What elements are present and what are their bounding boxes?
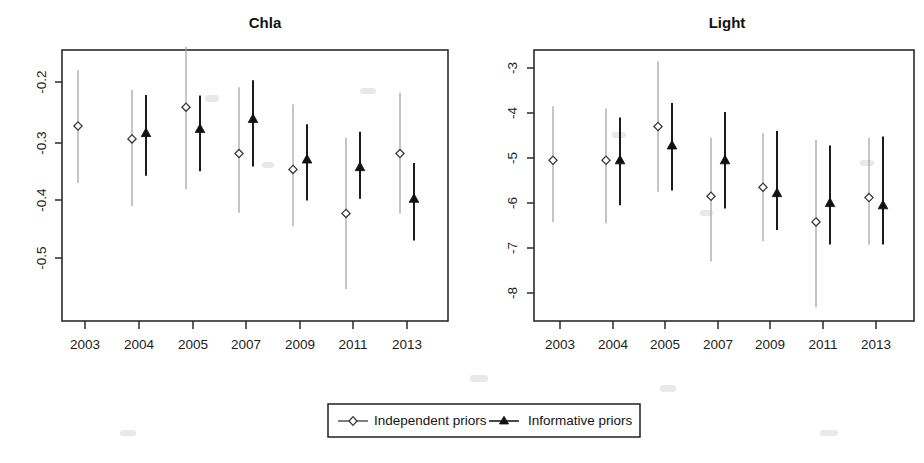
data-point-2013-independent <box>396 93 404 214</box>
ytick-label: -3 <box>505 62 520 74</box>
panel-chla-title: Chla <box>249 14 282 31</box>
data-point-2013-independent <box>865 138 873 245</box>
filled-triangle-icon <box>667 140 677 149</box>
data-point-2011-independent <box>342 138 350 289</box>
open-diamond-icon <box>128 135 136 143</box>
ytick-label: -6 <box>505 197 520 209</box>
data-point-2005-independent <box>182 47 190 190</box>
open-diamond-icon <box>707 192 715 200</box>
filled-triangle-icon <box>615 155 625 164</box>
panel-light: Light -3 -4 -5 -6 -7 -8 2003 <box>505 14 914 352</box>
legend-label-independent: Independent priors <box>374 413 487 428</box>
legend-label-informative: Informative priors <box>528 413 633 428</box>
data-point-2005-independent <box>654 61 662 192</box>
data-point-2013-informative <box>878 136 888 244</box>
ytick-label: -0.2 <box>34 70 49 93</box>
xtick-label: 2003 <box>545 337 575 352</box>
panel-chla-data <box>74 47 419 289</box>
filled-triangle-icon <box>825 198 835 207</box>
data-point-2009-independent <box>289 104 297 226</box>
data-point-2003-independent <box>74 70 82 183</box>
data-point-2005-informative <box>667 103 677 190</box>
filled-triangle-icon <box>195 124 205 133</box>
open-diamond-icon <box>602 156 610 164</box>
data-point-2007-independent <box>235 87 243 213</box>
filled-triangle-icon <box>355 162 365 171</box>
data-point-2009-informative <box>302 124 312 200</box>
scan-artifacts <box>120 88 874 436</box>
ytick-label: -0.4 <box>34 188 49 212</box>
xtick-label: 2005 <box>178 337 208 352</box>
filled-triangle-icon <box>302 154 312 163</box>
data-point-2009-informative <box>772 131 782 230</box>
open-diamond-icon <box>396 149 404 157</box>
data-point-2004-independent <box>602 109 610 224</box>
data-point-2007-independent <box>707 138 715 262</box>
filled-triangle-icon <box>141 128 151 137</box>
panel-chla-x-axis: 2003 2004 2005 2007 2009 2011 2013 <box>70 321 422 352</box>
ytick-label: -0.5 <box>34 246 49 269</box>
panel-chla-y-axis: -0.2 -0.3 -0.4 -0.5 <box>34 70 62 269</box>
data-point-2007-informative <box>720 112 730 208</box>
data-point-2004-informative <box>141 95 151 176</box>
panel-light-title: Light <box>709 14 746 31</box>
data-point-2004-informative <box>615 118 625 206</box>
ytick-label: -7 <box>505 242 520 254</box>
open-diamond-icon <box>235 149 243 157</box>
xtick-label: 2005 <box>650 337 680 352</box>
data-point-2013-informative <box>409 163 419 240</box>
open-diamond-icon <box>289 165 297 173</box>
xtick-label: 2009 <box>755 337 785 352</box>
filled-triangle-icon <box>409 194 419 203</box>
ytick-label: -4 <box>505 107 520 119</box>
xtick-label: 2011 <box>808 337 837 352</box>
open-diamond-icon <box>812 218 820 226</box>
open-diamond-icon <box>342 209 350 217</box>
open-diamond-icon <box>74 122 82 130</box>
xtick-label: 2007 <box>231 337 261 352</box>
xtick-label: 2004 <box>124 337 155 352</box>
data-point-2007-informative <box>248 80 258 166</box>
filled-triangle-icon <box>878 200 888 209</box>
xtick-label: 2004 <box>598 337 629 352</box>
xtick-label: 2013 <box>392 337 422 352</box>
filled-triangle-icon <box>720 155 730 164</box>
open-diamond-icon <box>182 103 190 111</box>
open-diamond-icon <box>654 122 662 130</box>
panel-light-data <box>549 61 888 307</box>
figure-canvas: Chla -0.2 -0.3 -0.4 -0.5 2003 2004 2005 … <box>0 0 924 463</box>
data-point-2011-independent <box>812 140 820 307</box>
legend: Independent priors Informative priors <box>328 404 640 437</box>
xtick-label: 2003 <box>70 337 100 352</box>
panel-chla: Chla -0.2 -0.3 -0.4 -0.5 2003 2004 2005 … <box>34 14 448 352</box>
data-point-2011-informative <box>355 132 365 199</box>
ytick-label: -0.3 <box>34 131 49 154</box>
xtick-label: 2011 <box>338 337 367 352</box>
data-point-2003-independent <box>549 106 557 222</box>
panel-chla-frame <box>62 50 448 321</box>
xtick-label: 2009 <box>285 337 315 352</box>
xtick-label: 2007 <box>703 337 733 352</box>
open-diamond-icon <box>759 183 767 191</box>
xtick-label: 2013 <box>861 337 891 352</box>
ytick-label: -8 <box>505 287 520 299</box>
data-point-2005-informative <box>195 95 205 171</box>
data-point-2009-independent <box>759 133 767 241</box>
panel-light-y-axis: -3 -4 -5 -6 -7 -8 <box>505 62 534 299</box>
filled-triangle-icon <box>248 114 258 123</box>
filled-triangle-icon <box>772 188 782 197</box>
open-diamond-icon <box>549 156 557 164</box>
open-diamond-icon <box>865 194 873 202</box>
data-point-2004-independent <box>128 90 136 207</box>
data-point-2011-informative <box>825 145 835 244</box>
ytick-label: -5 <box>505 152 520 164</box>
panel-light-x-axis: 2003 2004 2005 2007 2009 2011 2013 <box>545 321 891 352</box>
